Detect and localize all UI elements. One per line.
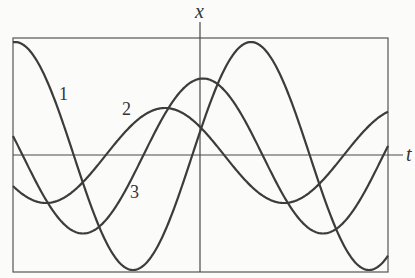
curve-2-label: 2 (122, 99, 131, 119)
curve-3-label: 3 (130, 182, 139, 202)
t-axis-label: t (406, 143, 412, 165)
x-axis-label: x (194, 0, 204, 22)
curve-1-label: 1 (59, 84, 68, 104)
oscillation-chart: x t 1 2 3 (0, 0, 415, 278)
